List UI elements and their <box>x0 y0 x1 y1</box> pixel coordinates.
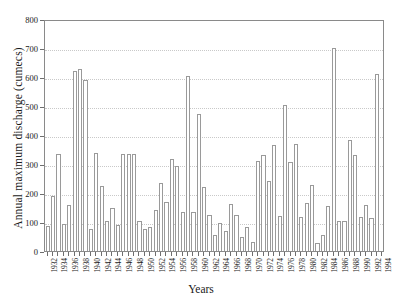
x-tick-label: 1956 <box>179 258 188 273</box>
x-tick-mark <box>376 252 377 256</box>
y-tick-label: 100 <box>25 218 38 228</box>
bar <box>305 203 309 251</box>
bar <box>137 221 141 251</box>
x-tick-mark <box>263 252 264 256</box>
bar <box>89 229 93 251</box>
x-tick-mark <box>306 252 307 256</box>
x-tick-mark <box>160 252 161 256</box>
bar <box>143 229 147 251</box>
bar <box>310 185 314 251</box>
x-tick-label: 1970 <box>255 258 264 273</box>
x-tick-mark <box>176 252 177 256</box>
bar <box>337 221 341 251</box>
x-tick-label: 1936 <box>71 258 80 273</box>
x-axis-title: Years <box>0 283 402 295</box>
x-tick-mark <box>365 252 366 256</box>
x-tick-label: 1954 <box>168 258 177 273</box>
x-tick-mark <box>279 252 280 256</box>
x-tick-label: 1942 <box>104 258 113 273</box>
bar <box>207 215 211 251</box>
bar <box>105 221 109 251</box>
x-tick-label: 1966 <box>233 258 242 273</box>
x-tick-mark <box>63 252 64 256</box>
bar <box>213 235 217 251</box>
x-tick-mark <box>311 252 312 256</box>
bar <box>332 48 336 251</box>
x-tick-mark <box>165 252 166 256</box>
bar <box>234 215 238 251</box>
x-tick-mark <box>57 252 58 256</box>
bar <box>224 231 228 251</box>
bar <box>83 80 87 251</box>
bar <box>78 69 82 251</box>
x-tick-mark <box>90 252 91 256</box>
x-tick-mark <box>198 252 199 256</box>
x-tick-mark <box>84 252 85 256</box>
x-tick-mark <box>117 252 118 256</box>
x-tick-mark <box>149 252 150 256</box>
x-tick-label: 1946 <box>125 258 134 273</box>
x-tick-mark <box>209 252 210 256</box>
bar <box>240 237 244 251</box>
x-tick-mark <box>273 252 274 256</box>
x-tick-mark <box>225 252 226 256</box>
plot-area <box>44 20 384 252</box>
x-tick-mark <box>52 252 53 256</box>
x-tick-label: 1960 <box>201 258 210 273</box>
x-tick-mark <box>317 252 318 256</box>
bar <box>261 155 265 251</box>
x-tick-mark <box>300 252 301 256</box>
bar <box>218 223 222 251</box>
x-tick-mark <box>47 252 48 256</box>
bar <box>62 224 66 251</box>
x-tick-label: 1988 <box>352 258 361 273</box>
x-tick-mark <box>333 252 334 256</box>
bar <box>359 217 363 251</box>
bar <box>67 205 71 251</box>
x-tick-label: 1982 <box>320 258 329 273</box>
x-tick-mark <box>371 252 372 256</box>
bar <box>186 76 190 251</box>
x-tick-mark <box>295 252 296 256</box>
x-tick-mark <box>74 252 75 256</box>
x-tick-mark <box>187 252 188 256</box>
bar <box>288 162 292 251</box>
x-tick-label: 1990 <box>363 258 372 273</box>
x-tick-mark <box>68 252 69 256</box>
x-tick-mark <box>192 252 193 256</box>
x-tick-mark <box>360 252 361 256</box>
x-tick-mark <box>79 252 80 256</box>
bar <box>170 159 174 251</box>
x-tick-mark <box>257 252 258 256</box>
x-tick-mark <box>101 252 102 256</box>
x-tick-label: 1932 <box>50 258 59 273</box>
x-tick-label: 1950 <box>147 258 156 273</box>
x-tick-label: 1962 <box>212 258 221 273</box>
bar <box>121 154 125 251</box>
bar <box>191 212 195 251</box>
x-tick-mark <box>252 252 253 256</box>
y-axis-ticks: 0100200300400500600700800 <box>0 20 44 252</box>
x-tick-label: 1974 <box>276 258 285 273</box>
y-tick-label: 500 <box>25 102 38 112</box>
bar <box>164 202 168 251</box>
x-tick-mark <box>95 252 96 256</box>
bar <box>127 154 131 251</box>
bar-series <box>45 21 383 251</box>
x-tick-mark <box>144 252 145 256</box>
bar <box>283 105 287 251</box>
x-tick-mark <box>381 252 382 256</box>
bar <box>272 145 276 251</box>
y-tick-label: 400 <box>25 131 38 141</box>
x-tick-label: 1978 <box>298 258 307 273</box>
bar <box>369 218 373 251</box>
bar <box>353 155 357 251</box>
x-tick-mark <box>349 252 350 256</box>
x-tick-mark <box>106 252 107 256</box>
bar <box>348 140 352 251</box>
x-tick-mark <box>230 252 231 256</box>
x-tick-mark <box>354 252 355 256</box>
y-tick-label: 200 <box>25 189 38 199</box>
x-tick-mark <box>327 252 328 256</box>
y-tick-label: 0 <box>34 247 38 257</box>
